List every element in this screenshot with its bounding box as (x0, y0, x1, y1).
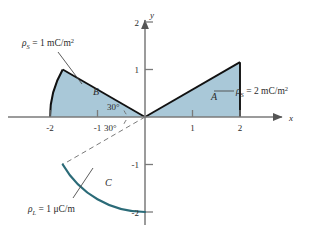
x-tick-label-1: 1 (190, 123, 195, 133)
y-tick-label--1: -1 (132, 160, 140, 170)
region-A (145, 62, 240, 117)
x-tick-label--2: -2 (46, 123, 54, 133)
x-tick-label-2: 2 (238, 123, 243, 133)
curve-C (63, 165, 145, 213)
rho-value-B: = 1 mC/m (32, 38, 71, 48)
x-axis-label: x (288, 113, 293, 123)
rho-exponent-B: 2 (71, 37, 74, 44)
annotation-region-A: ρS = 2 mC/m2 (235, 85, 288, 98)
charge-distribution-diagram: x y -2 -1 1 2 2 1 -1 -2 30° 30° B A C ρS… (0, 0, 314, 234)
rho-value-A: = 2 mC/m (246, 86, 285, 96)
svg-text:ρL = 1 μC/m: ρL = 1 μC/m (27, 204, 75, 216)
rho-value-C: = 1 μC/m (39, 204, 76, 214)
region-label-A: A (210, 91, 218, 102)
y-tick-label--2: -2 (132, 208, 140, 218)
figure-canvas: x y -2 -1 1 2 2 1 -1 -2 30° 30° B A C ρS… (0, 0, 314, 234)
annotation-region-B: ρS = 1 mC/m2 (21, 37, 74, 50)
region-label-C: C (105, 177, 112, 188)
angle-label-upper: 30° (107, 102, 120, 112)
annotation-curve-C: ρL = 1 μC/m (27, 204, 75, 216)
svg-text:ρS = 1 mC/m2: ρS = 1 mC/m2 (21, 37, 74, 50)
region-label-B: B (93, 86, 99, 97)
x-tick-label--1: -1 (94, 123, 102, 133)
angle-arc-lower (124, 120, 126, 124)
rho-exponent-A: 2 (285, 85, 288, 92)
y-axis-label: y (149, 10, 154, 20)
y-tick-label-1: 1 (135, 65, 140, 75)
svg-text:ρS = 2 mC/m2: ρS = 2 mC/m2 (235, 85, 288, 98)
y-tick-label-2: 2 (135, 18, 140, 28)
angle-label-lower: 30° (104, 123, 117, 133)
